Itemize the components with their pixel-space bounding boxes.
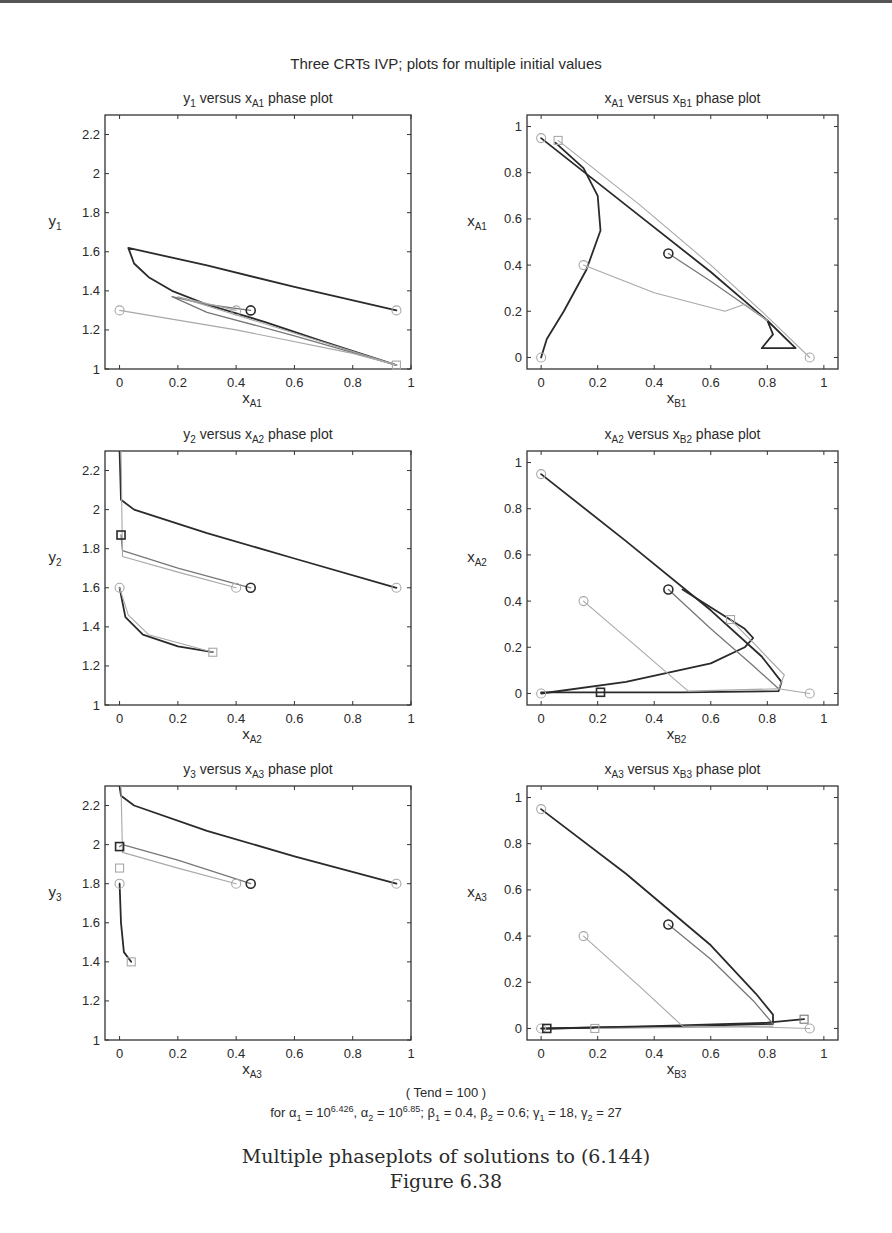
x-tick-label: 0.8 <box>758 1046 776 1061</box>
x-tick-label: 0.2 <box>589 711 607 726</box>
y-tick-label: 1 <box>515 455 522 470</box>
trajectory-traj-light-a <box>584 936 810 1028</box>
trajectory-traj-mid <box>668 925 773 1024</box>
x-tick-label: 0.2 <box>589 1046 607 1061</box>
x-tick-label: 0.4 <box>645 711 663 726</box>
axes-box <box>105 115 411 369</box>
alpha2-text: α2 = 106.85 <box>361 1105 421 1120</box>
x-axis-label: xA2 <box>242 725 262 745</box>
trajectory-traj-dark-a <box>120 786 397 884</box>
x-tick-label: 0.2 <box>589 375 607 390</box>
plot-title: y1 versus xA1 phase plot <box>183 90 332 109</box>
x-tick-label: 0.4 <box>645 375 663 390</box>
x-tick-label: 0 <box>538 1046 545 1061</box>
plot-title: y3 versus xA3 phase plot <box>183 761 332 780</box>
plot-title: xA1 versus xB1 phase plot <box>605 90 761 109</box>
x-axis-label: xB2 <box>667 725 687 745</box>
plot-title: xA3 versus xB3 phase plot <box>605 761 761 780</box>
y-tick-label: 0.8 <box>504 501 522 516</box>
x-tick-label: 0.8 <box>758 375 776 390</box>
axes-box <box>105 786 411 1040</box>
x-tick-label: 0.4 <box>227 375 245 390</box>
y-tick-label: 0.6 <box>504 547 522 562</box>
beta1-text: β1 = 0.4 <box>428 1105 473 1120</box>
y-tick-label: 0.4 <box>504 929 522 944</box>
y-axis-label: y3 <box>48 883 62 903</box>
y-tick-label: 1.8 <box>82 541 100 556</box>
x-axis-label: xB1 <box>667 389 687 409</box>
y-tick-label: 0.6 <box>504 882 522 897</box>
trajectory-traj-light-a <box>178 297 397 365</box>
phase-plot-grid: 00.20.40.60.8111.21.41.61.822.2y1 versus… <box>0 0 892 1233</box>
trajectory-traj-dark-b <box>120 884 132 962</box>
gamma2-text: γ2 = 27 <box>581 1105 622 1120</box>
trajectory-traj-dark-b <box>541 143 600 358</box>
x-tick-label: 0.4 <box>645 1046 663 1061</box>
y-tick-label: 0.2 <box>504 304 522 319</box>
y-axis-label: y1 <box>48 212 62 232</box>
y-tick-label: 1.2 <box>82 322 100 337</box>
x-axis-label: xA3 <box>242 1060 262 1080</box>
gamma1-text: γ1 = 18 <box>533 1105 574 1120</box>
y-tick-label: 1.2 <box>82 993 100 1008</box>
trajectory-traj-light-b <box>120 310 397 365</box>
y-tick-label: 1.6 <box>82 915 100 930</box>
y-tick-label: 1.8 <box>82 876 100 891</box>
phase-plot-p11: 00.20.40.60.8111.21.41.61.822.2y1 versus… <box>48 90 414 409</box>
y-tick-label: 1 <box>515 119 522 134</box>
trajectory-traj-mid <box>668 590 778 689</box>
y-tick-label: 0.4 <box>504 594 522 609</box>
trajectory-traj-dark <box>128 248 396 365</box>
x-tick-label: 0.6 <box>285 1046 303 1061</box>
x-tick-label: 0.2 <box>169 1046 187 1061</box>
trajectory-traj-mid <box>120 845 251 884</box>
x-tick-label: 1 <box>820 375 827 390</box>
x-tick-label: 0.6 <box>702 1046 720 1061</box>
x-axis-label: xA1 <box>242 389 262 409</box>
y-tick-label: 1 <box>93 1033 100 1048</box>
y-tick-label: 2.2 <box>82 127 100 142</box>
x-tick-label: 1 <box>407 1046 414 1061</box>
trajectory-traj-light-b <box>584 265 768 320</box>
trajectory-traj-light-b <box>731 620 785 689</box>
y-tick-label: 1.6 <box>82 244 100 259</box>
x-tick-label: 0 <box>116 1046 123 1061</box>
y-tick-label: 2 <box>93 837 100 852</box>
y-tick-label: 0 <box>515 350 522 365</box>
y-tick-label: 0.8 <box>504 165 522 180</box>
x-tick-label: 0.4 <box>227 1046 245 1061</box>
y-axis-label: xA2 <box>467 548 487 568</box>
y-tick-label: 0.8 <box>504 836 522 851</box>
trajectory-traj-light-a <box>121 451 236 588</box>
y-tick-label: 1.4 <box>82 954 100 969</box>
params-prefix: for <box>270 1105 289 1120</box>
x-tick-label: 0 <box>116 711 123 726</box>
y-tick-label: 2 <box>93 502 100 517</box>
phase-plot-p22: 00.20.40.60.8100.20.40.60.81xA2 versus x… <box>467 426 838 745</box>
x-tick-label: 1 <box>407 711 414 726</box>
phase-plot-p31: 00.20.40.60.8111.21.41.61.822.2y3 versus… <box>48 761 414 1080</box>
y-tick-label: 1.4 <box>82 619 100 634</box>
x-tick-label: 0.8 <box>344 711 362 726</box>
square-marker <box>116 864 124 872</box>
phase-plot-p32: 00.20.40.60.8100.20.40.60.81xA3 versus x… <box>467 761 838 1080</box>
x-tick-label: 0 <box>538 375 545 390</box>
x-tick-label: 0.8 <box>758 711 776 726</box>
y-tick-label: 1.4 <box>82 283 100 298</box>
trajectory-traj-dark-a <box>541 138 796 348</box>
y-tick-label: 0 <box>515 686 522 701</box>
x-tick-label: 0 <box>538 711 545 726</box>
x-tick-label: 0 <box>116 375 123 390</box>
phase-plot-p12: 00.20.40.60.8100.20.40.60.81xA1 versus x… <box>467 90 838 409</box>
axes-box <box>527 451 838 705</box>
x-tick-label: 1 <box>820 711 827 726</box>
y-tick-label: 1.6 <box>82 580 100 595</box>
x-tick-label: 0.6 <box>285 711 303 726</box>
y-tick-label: 2 <box>93 166 100 181</box>
axes-box <box>527 786 838 1040</box>
parameter-annotation: for α1 = 106.426, α2 = 106.85; β1 = 0.4,… <box>0 1104 892 1123</box>
y-tick-label: 1 <box>93 362 100 377</box>
x-tick-label: 0.6 <box>702 711 720 726</box>
y-tick-label: 1 <box>93 698 100 713</box>
beta2-text: β2 = 0.6 <box>480 1105 525 1120</box>
